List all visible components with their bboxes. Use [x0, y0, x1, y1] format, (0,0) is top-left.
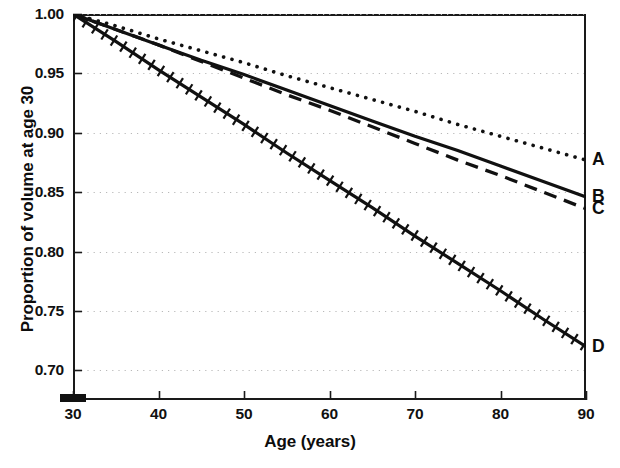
x-tick-label-80: 80	[492, 406, 509, 422]
chart-figure: 0.700.750.800.850.900.951.00 30405060708…	[0, 0, 620, 468]
x-tick-label-60: 60	[321, 406, 338, 422]
y-tick-label-0.80: 0.80	[35, 244, 64, 260]
series-label-A: A	[592, 151, 605, 169]
x-tick-label-30: 30	[65, 406, 82, 422]
reference-marker	[60, 394, 86, 402]
x-tick-label-70: 70	[407, 406, 424, 422]
x-axis-title: Age (years)	[0, 432, 620, 452]
y-tick-label-1.00: 1.00	[35, 6, 64, 22]
x-tick-label-50: 50	[236, 406, 253, 422]
y-tick-label-0.95: 0.95	[35, 65, 64, 81]
x-tick-label-40: 40	[150, 406, 167, 422]
series-label-D: D	[592, 338, 605, 356]
y-tick-label-0.75: 0.75	[35, 303, 64, 319]
plot-area	[73, 14, 586, 400]
y-axis-title: Proportion of volume at age 30	[18, 9, 38, 409]
series-label-C: C	[592, 200, 605, 218]
y-tick-label-0.85: 0.85	[35, 184, 64, 200]
y-tick-label-0.70: 0.70	[35, 362, 64, 378]
y-tick-label-0.90: 0.90	[35, 125, 64, 141]
x-tick-label-90: 90	[578, 406, 595, 422]
x-axis-tick-labels: 30405060708090	[0, 406, 620, 432]
